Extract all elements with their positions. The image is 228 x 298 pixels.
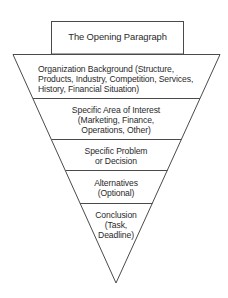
section-5-line-3: Deadline) (82, 230, 150, 240)
section-2-line-3: Operations, Other) (40, 125, 192, 135)
section-1-line-1: Organization Background (Structure, (38, 64, 219, 74)
section-conclusion: Conclusion (Task, Deadline) (82, 210, 150, 240)
section-4-line-2: (Optional) (72, 188, 160, 198)
section-3-line-2: or Decision (60, 156, 172, 166)
section-specific-area: Specific Area of Interest (Marketing, Fi… (40, 105, 192, 135)
section-5-line-2: (Task, (82, 220, 150, 230)
section-2-line-1: Specific Area of Interest (40, 105, 192, 115)
section-3-line-1: Specific Problem (60, 146, 172, 156)
section-4-line-1: Alternatives (72, 178, 160, 188)
section-1-line-3: History, Financial Situation) (38, 84, 219, 94)
section-1-line-2: Products, Industry, Competition, Service… (38, 74, 219, 84)
section-specific-problem: Specific Problem or Decision (60, 146, 172, 166)
section-2-line-2: (Marketing, Finance, (40, 115, 192, 125)
opening-paragraph-label: The Opening Paragraph (51, 32, 184, 42)
section-organization-background: Organization Background (Structure, Prod… (14, 64, 219, 94)
section-alternatives: Alternatives (Optional) (72, 178, 160, 198)
section-5-line-1: Conclusion (82, 210, 150, 220)
